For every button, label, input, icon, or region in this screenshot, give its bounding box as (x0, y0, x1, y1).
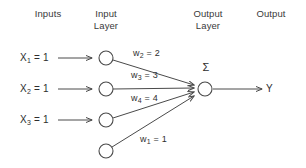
output-node-summation (198, 82, 212, 96)
input-node-3 (99, 113, 113, 127)
diagram-graphics (0, 0, 306, 168)
edge-w4 (113, 92, 194, 118)
input-layer-nodes (99, 51, 113, 158)
input-node-bias (99, 144, 113, 158)
edge-w2 (113, 60, 194, 85)
weight-edges (112, 60, 194, 147)
input-node-2 (99, 82, 113, 96)
edge-w3 (113, 88, 194, 89)
neural-network-diagram: Inputs Input Layer Output Layer Output X… (0, 0, 306, 168)
input-arrows (58, 58, 92, 120)
edge-w1 (112, 96, 194, 147)
input-node-1 (99, 51, 113, 65)
